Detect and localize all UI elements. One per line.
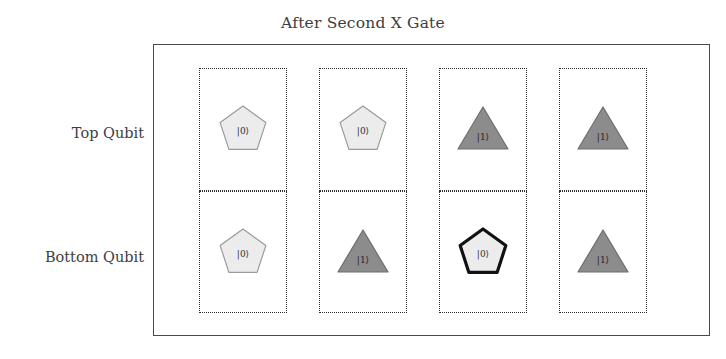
state-glyph-column-3-top: |1⟩: [455, 103, 511, 155]
cell-column-1-top[interactable]: |0⟩: [199, 68, 287, 191]
state-glyph-column-4-top: |1⟩: [575, 103, 631, 155]
state-glyph-column-3-bottom-highlighted: |0⟩: [455, 226, 511, 278]
cell-column-4-top[interactable]: |1⟩: [559, 68, 647, 191]
row-label-bottom-qubit: Bottom Qubit: [0, 249, 144, 265]
row-label-top-qubit: Top Qubit: [0, 125, 144, 141]
cell-column-3-top[interactable]: |1⟩: [439, 68, 527, 191]
qubit-column-3: |1⟩ |0⟩: [439, 68, 527, 313]
state-glyph-column-1-top: |0⟩: [215, 103, 271, 155]
cell-column-2-bottom[interactable]: |1⟩: [319, 191, 407, 314]
qubit-column-2: |0⟩ |1⟩: [319, 68, 407, 313]
qubit-column-1: |0⟩ |0⟩: [199, 68, 287, 313]
state-glyph-column-4-bottom: |1⟩: [575, 226, 631, 278]
page-title: After Second X Gate: [0, 14, 726, 32]
state-glyph-column-1-bottom: |0⟩: [215, 226, 271, 278]
diagram-frame: |0⟩ |0⟩ |0⟩ |1⟩ |1⟩: [153, 44, 710, 336]
cell-column-4-bottom[interactable]: |1⟩: [559, 191, 647, 314]
state-glyph-column-2-top: |0⟩: [335, 103, 391, 155]
cell-column-2-top[interactable]: |0⟩: [319, 68, 407, 191]
qubit-column-4: |1⟩ |1⟩: [559, 68, 647, 313]
cell-column-1-bottom[interactable]: |0⟩: [199, 191, 287, 314]
state-glyph-column-2-bottom: |1⟩: [335, 226, 391, 278]
cell-column-3-bottom[interactable]: |0⟩: [439, 191, 527, 314]
